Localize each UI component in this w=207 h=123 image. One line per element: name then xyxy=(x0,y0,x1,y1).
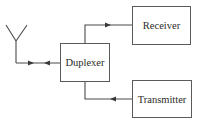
duplexer-block: Duplexer xyxy=(60,43,110,82)
duplexer-receiver-connection xyxy=(85,23,132,44)
transmitter-duplexer-connection xyxy=(85,81,132,102)
transmitter-label: Transmitter xyxy=(138,94,187,105)
antenna-icon xyxy=(6,25,27,63)
arrow-right-icon xyxy=(105,23,111,28)
antenna-duplexer-connection xyxy=(16,61,60,66)
duplexer-label: Duplexer xyxy=(65,57,104,68)
receiver-label: Receiver xyxy=(143,20,180,31)
transmitter-block: Transmitter xyxy=(132,80,192,118)
arrow-left-icon xyxy=(44,61,50,66)
receiver-block: Receiver xyxy=(132,6,191,45)
arrow-left-icon xyxy=(110,97,116,102)
arrow-right-icon xyxy=(28,61,34,66)
